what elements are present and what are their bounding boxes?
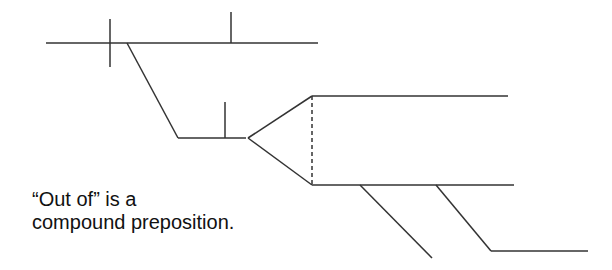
preposition-diagonal (127, 43, 178, 138)
annotation-line-2: compound preposition. (32, 211, 234, 234)
modifier-diagonal-2 (436, 185, 491, 251)
annotation-line-1: “Out of” is a (32, 188, 234, 211)
modifier-diagonal-1 (360, 185, 432, 258)
fork-lower-branch (248, 138, 312, 185)
annotation-note: “Out of” is a compound preposition. (32, 188, 234, 234)
fork-upper-branch (248, 96, 312, 138)
